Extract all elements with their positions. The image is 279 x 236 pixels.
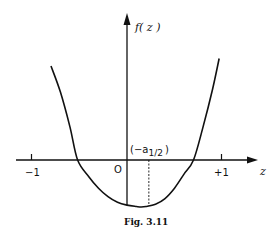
y-axis-label: f( z ) bbox=[134, 21, 160, 34]
annotation-main: (−a bbox=[130, 144, 148, 155]
figure-caption: Fig. 3.11 bbox=[124, 217, 168, 227]
x-axis-label: z bbox=[259, 165, 266, 178]
x-tick-label-pos1: +1 bbox=[214, 167, 229, 178]
annotation-label: (−a1/2) bbox=[130, 144, 169, 158]
x-tick-label-neg1: −1 bbox=[25, 167, 40, 178]
y-axis-arrow-icon bbox=[124, 13, 131, 25]
x-axis-arrow-icon bbox=[247, 157, 258, 164]
figure: −1 +1 O z f( z ) (−a1/2) Fig. 3.11 bbox=[0, 0, 279, 236]
annotation-sub: 1/2 bbox=[148, 148, 162, 158]
annotation-close: ) bbox=[165, 144, 169, 155]
series-line-0 bbox=[51, 58, 219, 207]
origin-label: O bbox=[114, 164, 122, 175]
